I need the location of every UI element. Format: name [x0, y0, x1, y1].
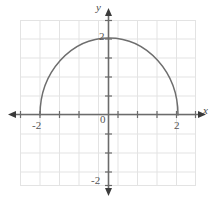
y-axis-name-label: y: [96, 2, 101, 13]
x-axis: [8, 111, 206, 118]
graph-figure: y x 0 -2 2 2 -2: [0, 0, 214, 197]
x-tick-label-negative-2: -2: [32, 120, 41, 131]
x-axis-name-label: x: [203, 105, 208, 116]
y-axis-top-arrowhead: [105, 8, 112, 16]
x-tick-label-positive-2: 2: [174, 120, 180, 131]
y-axis-bottom-arrowhead: [105, 188, 112, 196]
y-tick-label-positive-2: 2: [99, 31, 105, 42]
y-axis: [105, 8, 112, 196]
origin-label: 0: [100, 114, 106, 125]
coordinate-plane-canvas: [0, 0, 214, 197]
y-tick-label-negative-2: -2: [91, 175, 100, 186]
x-axis-left-arrowhead: [8, 111, 16, 118]
